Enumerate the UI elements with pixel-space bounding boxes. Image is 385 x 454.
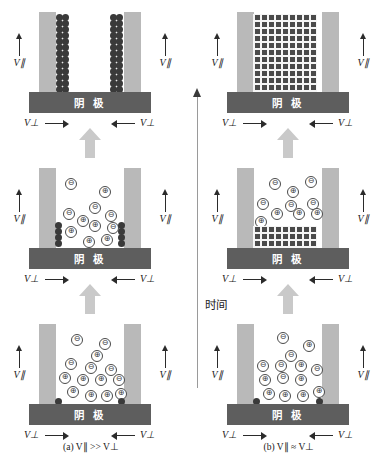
ion-anion: ⊖ [285,350,297,362]
column-b: 阴 极 V∥ V∥ V⊥ V⊥ ⊖ [200,0,378,454]
column-a: 阴 极 V∥ V∥ V⊥ V⊥ [2,0,180,454]
ion-anion: ⊖ [311,364,323,376]
cathode-bar: 阴 极 [29,248,151,269]
v-parallel-left-label: V∥ [204,213,230,224]
wall-left [39,168,56,248]
ion-cation: ⊕ [297,390,309,402]
cathode-label: 阴 极 [29,407,151,422]
ion-cation: ⊕ [83,236,95,248]
v-parallel-left-label: V∥ [204,57,230,68]
ion-anion: ⊖ [63,208,75,220]
ion-anion: ⊖ [257,360,269,372]
v-perp-right-arrow [117,279,135,280]
ion-cation: ⊕ [271,208,283,220]
ion-cation: ⊕ [295,374,307,386]
v-parallel-left-label: V∥ [6,57,32,68]
column-a-stage-initial: ⊖ ⊖ ⊕ ⊖ ⊖ ⊖ ⊕ ⊕ ⊕ ⊖ ⊕ ⊕ ⊕ ⊕ 阴 极 [2,316,180,454]
wall-left [39,12,56,92]
v-perp-right-arrow [315,435,333,436]
v-parallel-right-label: V∥ [152,57,178,68]
column-b-stage-middle: ⊖ ⊖ ⊕ ⊖ ⊖ ⊖ ⊕ ⊕ ⊕ ⊕ 阴 极 V∥ [200,160,378,300]
ion-anion: ⊖ [305,176,317,188]
ion-anion: ⊖ [85,362,97,374]
ion-anion: ⊖ [277,372,289,384]
v-perp-left-label: V⊥ [222,117,237,128]
v-perp-right-arrow [117,435,135,436]
v-parallel-left-label: V∥ [204,369,230,380]
cathode-bar: 阴 极 [227,404,349,425]
v-perp-right-label: V⊥ [338,429,353,440]
ion-cation: ⊕ [77,215,89,227]
wall-left [237,324,254,404]
v-perp-left-arrow [243,279,261,280]
flat-deposit-layer [253,226,317,248]
progress-arrow-lower-b [277,284,299,314]
wall-left [237,168,254,248]
cathode-label: 阴 极 [227,251,349,266]
wall-right [322,12,339,92]
v-perp-left-label: V⊥ [222,429,237,440]
ion-cation: ⊕ [89,220,101,232]
caption-a: (a) V∥ >> V⊥ [2,441,180,452]
cathode-label: 阴 极 [29,251,151,266]
v-perp-right-label: V⊥ [140,117,155,128]
ion-anion: ⊖ [275,360,287,372]
ion-cation: ⊕ [85,390,97,402]
ion-cation: ⊕ [59,372,71,384]
v-perp-right-label: V⊥ [140,273,155,284]
ion-cation: ⊕ [295,360,307,372]
v-parallel-right-label: V∥ [152,369,178,380]
v-parallel-left-label: V∥ [6,213,32,224]
ion-cation: ⊕ [293,208,305,220]
ion-anion: ⊖ [71,334,83,346]
dense-deposit-block [253,14,317,92]
v-parallel-left-label: V∥ [6,369,32,380]
wall-right [124,168,141,248]
cathode-label: 阴 极 [227,95,349,110]
ion-anion: ⊖ [99,338,111,350]
v-parallel-right-label: V∥ [152,213,178,224]
v-perp-right-arrow [117,123,135,124]
v-parallel-right-label: V∥ [350,57,376,68]
v-perp-left-arrow [243,123,261,124]
v-perp-left-label: V⊥ [222,273,237,284]
ion-cation: ⊕ [101,234,113,246]
v-parallel-right-label: V∥ [350,369,376,380]
v-perp-left-label: V⊥ [24,117,39,128]
figure-canvas: 时间 [0,0,385,454]
ion-cation: ⊕ [303,340,315,352]
progress-arrow-upper-a [79,128,101,158]
v-perp-left-arrow [243,435,261,436]
column-a-stage-middle: ⊖ ⊕ ⊖ ⊖ ⊖ ⊕ ⊖ ⊕ ⊕ ⊕ ⊕ [2,160,180,300]
ion-anion: ⊖ [257,198,269,210]
v-perp-right-label: V⊥ [338,117,353,128]
ion-anion: ⊖ [105,210,117,222]
v-perp-right-arrow [315,279,333,280]
column-b-stage-final: 阴 极 V∥ V∥ V⊥ V⊥ [200,4,378,144]
cathode-label: 阴 极 [227,407,349,422]
ion-anion: ⊖ [65,358,77,370]
ion-anion: ⊖ [113,374,125,386]
v-perp-left-label: V⊥ [24,429,39,440]
ion-cation: ⊕ [279,390,291,402]
time-axis-shaft [197,94,198,388]
column-b-stage-initial: ⊖ ⊕ ⊖ ⊖ ⊖ ⊕ ⊖ ⊕ ⊖ ⊕ ⊕ ⊕ ⊕ ⊕ 阴 极 [200,316,378,454]
cathode-bar: 阴 极 [29,92,151,113]
ion-cation: ⊕ [95,374,107,386]
wall-right [124,12,141,92]
progress-arrow-lower-a [79,284,101,314]
ion-cation: ⊕ [99,186,111,198]
ion-anion: ⊖ [269,178,281,190]
ion-cation: ⊕ [101,390,113,402]
v-perp-right-label: V⊥ [338,273,353,284]
ion-anion: ⊖ [277,332,289,344]
ion-cation: ⊕ [287,186,299,198]
column-a-stage-final: 阴 极 V∥ V∥ V⊥ V⊥ [2,4,180,144]
v-perp-left-label: V⊥ [24,273,39,284]
v-perp-left-arrow [45,279,63,280]
v-perp-right-arrow [315,123,333,124]
wall-left [39,324,56,404]
ion-cation: ⊕ [65,226,77,238]
ion-cation: ⊕ [77,374,89,386]
ion-cation: ⊕ [263,388,275,400]
